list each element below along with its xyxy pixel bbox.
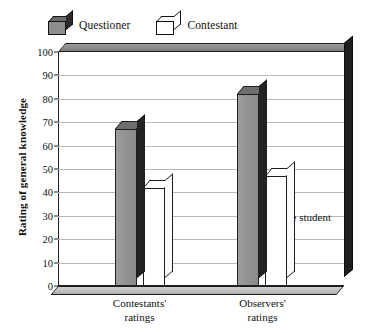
y-tick-label: 80 [43, 93, 54, 104]
plot-right-wall-3d [344, 35, 353, 277]
plot-area: 0102030405060708090100 Average student [58, 52, 344, 286]
bar-side-face [165, 173, 173, 278]
y-tick-mark [54, 98, 58, 99]
y-tick-label: 60 [43, 140, 54, 151]
y-tick-mark [54, 262, 58, 263]
y-tick-label: 10 [43, 257, 54, 268]
y-axis-title-text: Rating of general knowledge [16, 98, 28, 236]
gridline [58, 263, 344, 264]
gridline [58, 239, 344, 240]
light-cube-icon [156, 16, 181, 35]
bar-side-face [259, 79, 267, 278]
y-axis-title: Rating of general knowledge [14, 48, 30, 286]
legend-label-contestant: Contestant [187, 19, 237, 31]
chart-legend: Questioner Contestant [48, 12, 238, 38]
bar-chart-figure: Questioner Contestant Rating of general … [0, 0, 373, 333]
plot-floor-3d [50, 286, 344, 295]
y-tick-label: 40 [43, 187, 54, 198]
legend-label-questioner: Questioner [79, 19, 130, 31]
y-tick-label: 70 [43, 117, 54, 128]
y-tick-mark [54, 169, 58, 170]
y-tick-label: 30 [43, 210, 54, 221]
dark-cube-icon [48, 16, 73, 35]
y-tick-label: 90 [43, 70, 54, 81]
y-tick-label: 100 [37, 47, 53, 58]
bar-front-face [143, 188, 165, 286]
x-axis-label-line: ratings [207, 311, 317, 325]
x-axis-label-line: Observers' [207, 297, 317, 311]
y-tick-mark [54, 215, 58, 216]
bar-front-face [237, 94, 259, 286]
y-tick-mark [54, 52, 58, 53]
y-tick-mark [54, 75, 58, 76]
bar-side-face [137, 115, 145, 278]
y-tick-label: 0 [48, 281, 53, 292]
gridline [58, 75, 344, 76]
y-tick-mark [54, 192, 58, 193]
legend-entry-questioner: Questioner [48, 16, 130, 35]
y-tick-label: 20 [43, 234, 54, 245]
x-axis-label-line: Contestants' [85, 297, 195, 311]
gridline [58, 122, 344, 123]
x-axis-label-line: ratings [85, 311, 195, 325]
y-tick-mark [54, 122, 58, 123]
bar-questioner-group-1 [115, 129, 137, 286]
bar-questioner-group-2 [237, 94, 259, 286]
y-tick-mark [54, 239, 58, 240]
gridline [58, 192, 344, 193]
y-tick-mark [54, 145, 58, 146]
x-axis-label-group-1: Contestants'ratings [85, 297, 195, 324]
bar-front-face [265, 176, 287, 286]
bar-contestant-group-1 [143, 188, 165, 286]
plot-ceiling-3d [58, 43, 352, 52]
bar-side-face [287, 161, 295, 278]
bar-front-face [115, 129, 137, 286]
gridline [58, 169, 344, 170]
x-axis-label-group-2: Observers'ratings [207, 297, 317, 324]
gridline [58, 146, 344, 147]
bar-contestant-group-2 [265, 176, 287, 286]
y-tick-label: 50 [43, 164, 54, 175]
y-tick-mark [54, 286, 58, 287]
gridline [58, 99, 344, 100]
legend-entry-contestant: Contestant [156, 16, 237, 35]
